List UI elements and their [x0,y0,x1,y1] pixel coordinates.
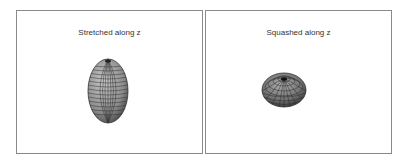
prolate-spheroid-mesh [17,11,202,153]
panel-squashed: Squashed along z [205,10,392,154]
oblate-spheroid-mesh [206,11,391,153]
panel-stretched: Stretched along z [16,10,203,154]
